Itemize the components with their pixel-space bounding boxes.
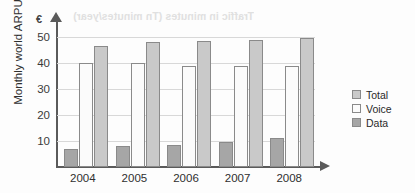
bar-data-2007 [219,142,233,167]
bar-data-2004 [64,149,78,167]
bar-total-2005 [146,42,160,167]
bar-total-2004 [94,46,108,167]
x-tick-label: 2006 [160,172,212,184]
y-tick-label: 20 [28,109,50,121]
plot-area [57,24,315,167]
x-tick-label: 2005 [108,172,160,184]
bar-total-2007 [249,40,263,167]
legend-swatch-data-icon [352,118,361,127]
y-axis-arrow-icon [50,12,62,22]
bar-group [57,24,109,167]
legend-item-total: Total [352,88,412,101]
bar-group [263,24,315,167]
bar-total-2008 [300,38,314,167]
bar-voice-2005 [131,63,145,167]
x-axis-arrow-icon [320,161,330,171]
y-tick-label: 40 [28,57,50,69]
legend-item-data: Data [352,116,412,129]
bar-voice-2008 [285,66,299,167]
bar-voice-2007 [234,66,248,167]
x-tick-label: 2008 [263,172,315,184]
bar-group [212,24,264,167]
bar-voice-2006 [182,66,196,167]
bar-group [160,24,212,167]
legend-swatch-voice-icon [352,104,361,113]
y-tick-label: 30 [28,83,50,95]
chart-screenshot: Traffic in minutes (Tn minutes/year) € M… [0,0,415,193]
x-tick-label: 2007 [212,172,264,184]
y-tick-label: 10 [28,135,50,147]
bar-data-2006 [167,145,181,167]
legend-item-voice: Voice [352,102,412,115]
chart-legend: TotalVoiceData [352,88,412,130]
legend-swatch-total-icon [352,90,361,99]
bar-voice-2004 [79,63,93,167]
x-tick-label: 2004 [57,172,109,184]
bar-total-2006 [197,41,211,167]
legend-label: Total [366,89,388,101]
bar-group [109,24,161,167]
y-tick-label: 50 [28,31,50,43]
bar-data-2008 [270,138,284,167]
bar-data-2005 [116,146,130,167]
scan-bleed-through-text: Traffic in minutes (Tn minutes/year) [44,10,254,24]
legend-label: Data [366,117,388,129]
y-axis-tick-labels: 1020304050 [8,24,50,167]
legend-label: Voice [366,103,392,115]
